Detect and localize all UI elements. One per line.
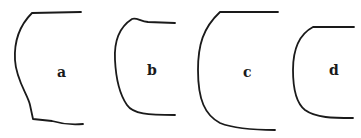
profile-c-label: c	[243, 64, 252, 80]
profile-b: b	[115, 18, 175, 115]
profile-d-label: d	[329, 62, 339, 78]
profile-d: d	[293, 27, 354, 118]
profile-a: a	[15, 12, 83, 124]
profile-figure: a b c d	[0, 0, 361, 138]
profile-d-outline	[293, 27, 354, 118]
profile-b-outline	[115, 18, 175, 115]
profile-a-outline	[15, 12, 83, 124]
profile-c-outline	[198, 12, 278, 130]
profile-a-label: a	[57, 64, 66, 80]
profile-c: c	[198, 12, 278, 130]
profile-b-label: b	[147, 62, 157, 78]
